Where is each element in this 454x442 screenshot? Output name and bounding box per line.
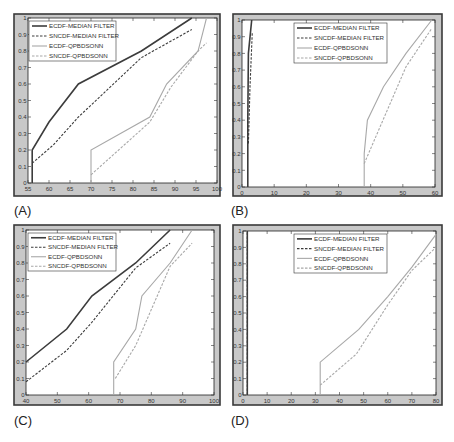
y-tick-label: 0.2 bbox=[233, 359, 242, 365]
legend: ECDF-MEDIAN FILTERSNCDF-MEDIAN FILTERECD… bbox=[294, 234, 387, 273]
y-tick-label: 0.5 bbox=[233, 310, 242, 316]
legend-entry: SNCDF-MEDIAN FILTER bbox=[314, 245, 385, 252]
x-tick-label: 30 bbox=[312, 398, 319, 404]
x-tick-label: 70 bbox=[409, 398, 416, 404]
x-tick-label: 40 bbox=[336, 398, 343, 404]
panel-label-a: (A) bbox=[14, 203, 31, 218]
legend-entry: SNCDF-QPBDSONN bbox=[314, 264, 373, 271]
y-tick-label: 0.4 bbox=[233, 327, 242, 333]
panel-label-d: (D) bbox=[231, 413, 249, 428]
figure-root: 00.10.20.30.40.50.60.70.80.9155606570758… bbox=[0, 0, 454, 442]
panel-label-b: (B) bbox=[231, 203, 248, 218]
chart-panel-d: 00.10.20.30.40.50.60.70.80.9101020304050… bbox=[0, 0, 454, 442]
legend-entry: ECDF-QPBDSONN bbox=[314, 255, 368, 262]
panel-label-c: (C) bbox=[14, 413, 32, 428]
y-tick-label: 0.9 bbox=[233, 245, 242, 251]
x-tick-label: 50 bbox=[360, 398, 367, 404]
y-tick-label: 0.3 bbox=[233, 343, 242, 349]
y-tick-label: 0.1 bbox=[233, 376, 242, 382]
x-tick-label: 10 bbox=[264, 398, 271, 404]
x-tick-label: 20 bbox=[288, 398, 295, 404]
legend-entry: ECDF-MEDIAN FILTER bbox=[314, 235, 380, 242]
x-tick-label: 80 bbox=[433, 398, 440, 404]
y-tick-label: 0.6 bbox=[233, 294, 242, 300]
y-tick-label: 0.7 bbox=[233, 277, 242, 283]
x-tick-label: 60 bbox=[384, 398, 391, 404]
y-tick-label: 0.8 bbox=[233, 261, 242, 267]
